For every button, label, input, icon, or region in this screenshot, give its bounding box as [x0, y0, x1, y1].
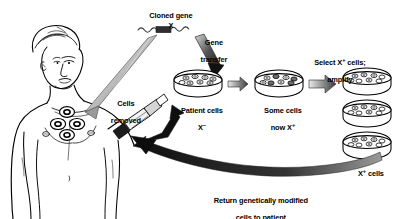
superscript-minus: −: [203, 121, 206, 127]
label-select-amplify: Select X+ cells; amplify: [294, 50, 378, 93]
label-gene-symbol: X: [152, 13, 182, 39]
label-xplus-cells: X+ cells: [340, 161, 394, 187]
label-some-cells-now-xplus: Some cells now X+: [246, 98, 312, 141]
dish-stack-item: [343, 132, 391, 159]
dish-stack-item: [343, 100, 391, 127]
extracted-cells-cluster: [50, 107, 84, 141]
arrow-between-dishes: [228, 77, 248, 91]
figure-canvas: Cloned gene X Gene transfer Cells remove…: [0, 0, 414, 219]
dish-patient-cells: [174, 70, 222, 97]
label-return-cells: Return genetically modified cells to pat…: [182, 188, 332, 219]
label-patient-cells: Patient cells X−: [165, 98, 231, 141]
superscript-plus: +: [292, 121, 295, 127]
label-gene-transfer: Gene transfer: [186, 30, 234, 73]
label-cells-removed: Cells removed: [98, 91, 146, 134]
